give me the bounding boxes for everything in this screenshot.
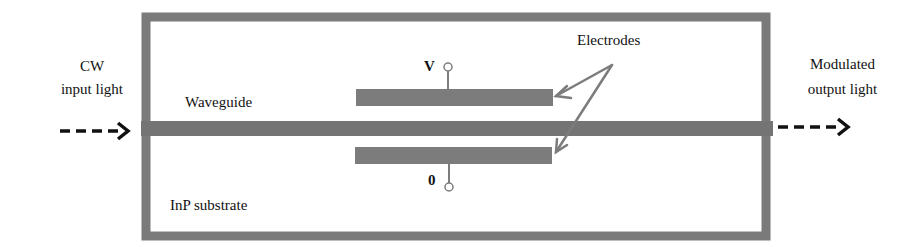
output-label-line1: Modulated [790,56,895,73]
terminal-v-label: V [424,58,435,75]
waveguide-bar [141,121,773,136]
input-label-line2: input light [52,81,132,98]
bottom-terminal-icon [445,183,453,191]
waveguide-label: Waveguide [185,94,252,111]
terminal-0-label: 0 [428,172,436,189]
input-arrow-icon [60,123,128,139]
top-electrode [356,89,553,106]
modulator-diagram [0,0,921,247]
bottom-electrode [355,147,552,164]
substrate-label: InP substrate [170,197,247,214]
electrode-pointer-arrows [556,65,612,152]
electrodes-label: Electrodes [577,32,640,49]
output-arrow-icon [778,119,848,135]
output-light-label: Modulated output light [790,56,895,98]
input-light-label: CW input light [52,58,132,98]
output-label-line2: output light [790,81,895,98]
input-label-line1: CW [52,58,132,75]
top-terminal-icon [444,63,452,71]
